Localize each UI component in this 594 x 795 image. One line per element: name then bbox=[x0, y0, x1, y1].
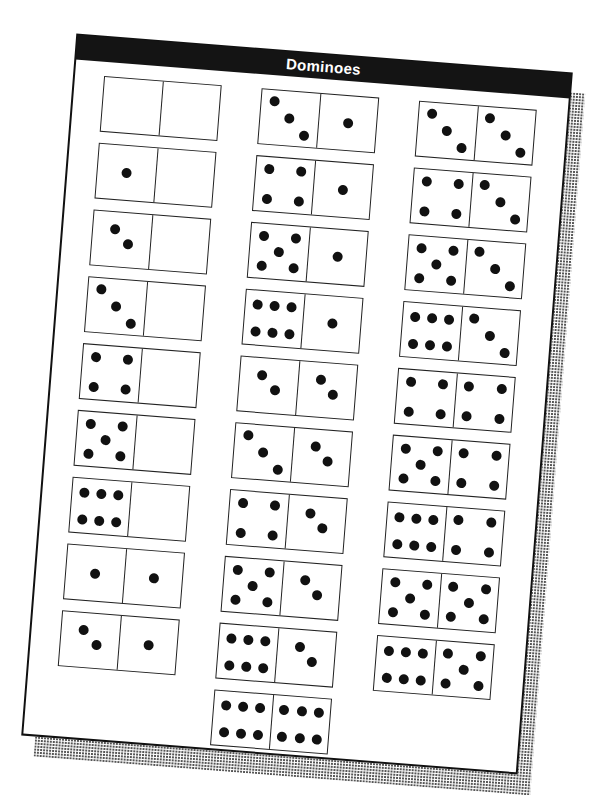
domino-half-left-two bbox=[237, 357, 300, 415]
pip-dot bbox=[267, 327, 278, 338]
domino-6-2 bbox=[215, 623, 337, 688]
pip-dot bbox=[284, 113, 295, 124]
pip-dot bbox=[126, 319, 137, 330]
pip-dot bbox=[342, 118, 353, 129]
pip-dot bbox=[226, 633, 237, 644]
pip-dot bbox=[451, 545, 462, 556]
pip-dot bbox=[328, 390, 339, 401]
pip-dot bbox=[313, 707, 324, 718]
domino-half-right-blank bbox=[128, 482, 190, 540]
domino-half-right-three bbox=[458, 307, 520, 365]
domino-4-4 bbox=[394, 368, 516, 433]
pip-dot bbox=[273, 465, 284, 476]
domino-half-left-four bbox=[395, 369, 458, 427]
pip-dot bbox=[85, 418, 96, 429]
pip-dot bbox=[83, 449, 94, 460]
pip-dot bbox=[315, 375, 326, 386]
pip-dot bbox=[451, 209, 462, 220]
domino-half-left-five bbox=[222, 557, 285, 615]
pip-dot bbox=[96, 284, 107, 295]
pip-dot bbox=[458, 664, 469, 675]
pip-dot bbox=[243, 430, 254, 441]
pip-dot bbox=[291, 233, 302, 244]
pip-dot bbox=[273, 247, 284, 258]
pip-dot bbox=[96, 488, 107, 499]
domino-3-2 bbox=[231, 422, 353, 487]
domino-3-0 bbox=[84, 276, 206, 341]
pip-dot bbox=[77, 514, 88, 525]
pip-dot bbox=[120, 384, 131, 395]
pip-dot bbox=[416, 675, 427, 686]
pip-dot bbox=[459, 448, 470, 459]
domino-4-0 bbox=[79, 343, 201, 408]
pip-dot bbox=[411, 513, 422, 524]
pip-dot bbox=[90, 352, 101, 363]
pip-dot bbox=[430, 476, 441, 487]
domino-3-3 bbox=[415, 101, 537, 166]
dominoes-sheet: Dominoes bbox=[21, 34, 573, 775]
domino-5-3 bbox=[404, 234, 526, 299]
domino-4-1 bbox=[252, 155, 374, 220]
pip-dot bbox=[422, 579, 433, 590]
domino-half-right-four bbox=[443, 507, 505, 565]
pip-dot bbox=[427, 108, 438, 119]
pip-dot bbox=[407, 338, 418, 349]
domino-1-0 bbox=[94, 143, 216, 208]
pip-dot bbox=[500, 130, 511, 141]
domino-2-0 bbox=[89, 209, 211, 274]
pip-dot bbox=[441, 126, 452, 137]
domino-half-left-two bbox=[59, 611, 122, 669]
domino-half-right-three bbox=[464, 240, 526, 298]
domino-half-right-blank bbox=[133, 416, 195, 474]
pip-dot bbox=[288, 263, 299, 274]
pip-dot bbox=[230, 594, 241, 605]
pip-dot bbox=[296, 166, 307, 177]
pip-dot bbox=[143, 640, 154, 651]
domino-half-left-three bbox=[416, 102, 479, 160]
domino-half-right-two bbox=[285, 495, 347, 553]
domino-half-left-six bbox=[384, 502, 447, 560]
pip-dot bbox=[100, 435, 111, 446]
domino-half-right-two bbox=[296, 361, 358, 419]
pip-dot bbox=[504, 281, 515, 292]
domino-2-1 bbox=[58, 610, 180, 675]
pip-dot bbox=[491, 450, 502, 461]
pip-dot bbox=[270, 385, 281, 396]
pip-dot bbox=[218, 726, 229, 737]
pip-dot bbox=[243, 634, 254, 645]
pip-dot bbox=[485, 113, 496, 124]
pip-dot bbox=[444, 314, 455, 325]
domino-half-left-six bbox=[69, 478, 132, 536]
domino-half-left-six bbox=[400, 302, 463, 360]
pip-dot bbox=[220, 699, 231, 710]
pip-dot bbox=[515, 148, 526, 159]
pip-dot bbox=[443, 648, 454, 659]
sheet-wrapper: Dominoes bbox=[21, 34, 573, 775]
pip-dot bbox=[398, 673, 409, 684]
domino-half-left-five bbox=[379, 569, 442, 627]
domino-6-6 bbox=[210, 689, 332, 754]
pip-dot bbox=[495, 197, 506, 208]
pip-dot bbox=[418, 648, 429, 659]
domino-2-2 bbox=[236, 355, 358, 420]
pip-dot bbox=[261, 194, 272, 205]
pip-dot bbox=[250, 326, 261, 337]
pip-dot bbox=[426, 541, 437, 552]
pip-dot bbox=[224, 660, 235, 671]
domino-half-right-five bbox=[432, 641, 494, 699]
pip-dot bbox=[332, 251, 343, 262]
pip-dot bbox=[121, 168, 132, 179]
pip-dot bbox=[258, 230, 269, 241]
pip-dot bbox=[453, 515, 464, 526]
pip-dot bbox=[267, 530, 278, 541]
pip-dot bbox=[475, 651, 486, 662]
pip-dot bbox=[262, 597, 273, 608]
pip-dot bbox=[255, 702, 266, 713]
pip-dot bbox=[78, 625, 89, 636]
pip-dot bbox=[311, 734, 322, 745]
pip-dot bbox=[247, 581, 258, 592]
pip-dot bbox=[496, 383, 507, 394]
domino-6-4 bbox=[383, 501, 505, 566]
pip-dot bbox=[420, 609, 431, 620]
domino-half-right-four bbox=[453, 373, 515, 431]
